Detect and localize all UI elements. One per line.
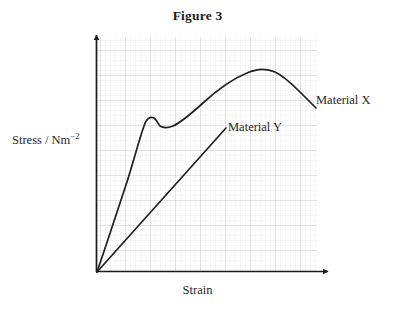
x-axis-label: Strain [0, 283, 395, 298]
series-label-material-y: Material Y [228, 120, 282, 135]
figure-container: Figure 3 [0, 0, 395, 310]
plot-grid [97, 37, 317, 272]
y-axis-label-exponent: −2 [70, 131, 79, 141]
y-axis-label: Stress / Nm−2 [12, 133, 79, 148]
y-axis-label-text: Stress / Nm [12, 133, 70, 147]
series-label-material-x: Material X [316, 93, 371, 108]
stress-strain-plot [0, 0, 395, 310]
